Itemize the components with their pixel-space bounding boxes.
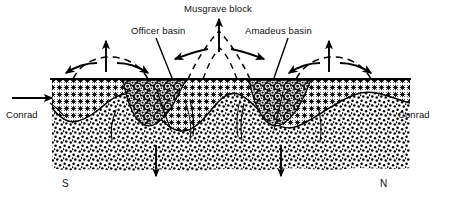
musgrave-diverging-arrow-west [175,49,208,59]
musgrave-block-label: Musgrave block [184,4,252,14]
left-dashed-dome [73,57,148,79]
musgrave-inner-limb-west [203,48,220,79]
amadeus-basin-label: Amadeus basin [245,26,312,36]
left-diverging-arrow-east [117,63,148,73]
musgrave-outer-limb-east [219,31,250,79]
right-diverging-arrow-east [340,63,371,73]
left-flank-uplift [66,41,148,79]
right-flank-uplift [289,41,371,79]
amadeus-basin-leader [274,38,288,78]
conrad-left-label: Conrad [6,110,38,120]
conrad-right-label: Conrad [398,110,430,120]
musgrave-diverging-arrow-east [231,49,264,59]
officer-basin-leader [156,38,172,78]
musgrave-inner-limb-east [220,48,237,79]
cross-section-drawing [0,0,449,203]
compass-north-label: N [380,179,387,189]
geological-cross-section-figure: Musgrave block Officer basin Amadeus bas… [0,0,449,203]
rock-body [50,78,412,174]
right-dashed-dome [296,57,371,79]
compass-south-label: S [62,179,69,189]
officer-basin-label: Officer basin [131,26,185,36]
